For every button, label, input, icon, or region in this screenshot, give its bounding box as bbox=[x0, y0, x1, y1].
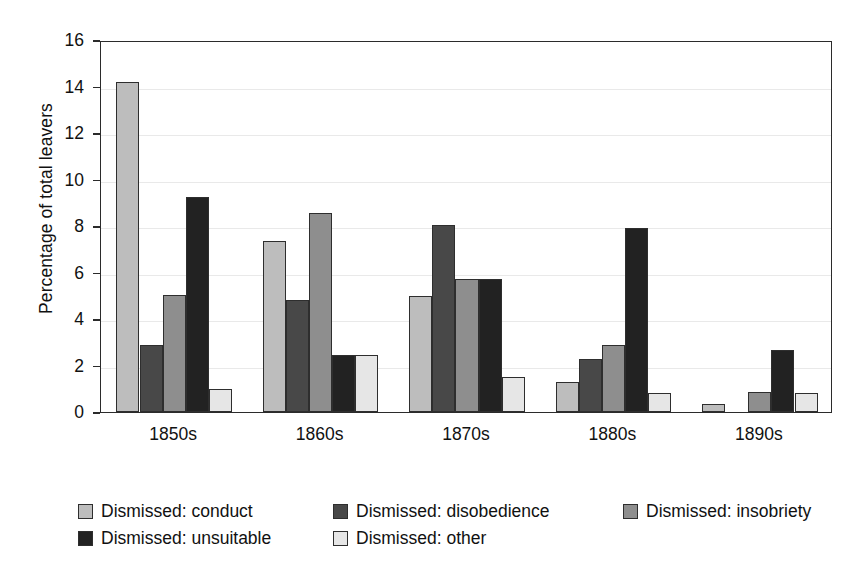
legend-item: Dismissed: unsuitable bbox=[78, 530, 333, 548]
legend-row: Dismissed: unsuitableDismissed: other bbox=[78, 530, 848, 557]
legend-swatch-icon bbox=[78, 504, 93, 519]
plot-area bbox=[100, 41, 832, 413]
y-axis-tick-label: 6 bbox=[34, 265, 84, 283]
x-axis-tick-label-1880s: 1880s bbox=[542, 424, 682, 445]
bar-disobedience-1870s bbox=[432, 225, 455, 412]
bar-conduct-1880s bbox=[556, 382, 579, 412]
bar-unsuitable-1850s bbox=[186, 197, 209, 412]
bar-conduct-1870s bbox=[409, 296, 432, 412]
bar-unsuitable-1870s bbox=[479, 279, 502, 412]
y-axis-tick-label: 4 bbox=[34, 311, 84, 329]
y-axis-tick bbox=[93, 133, 100, 134]
bar-other-1890s bbox=[795, 393, 818, 412]
legend-label: Dismissed: unsuitable bbox=[101, 530, 271, 548]
y-axis-tick-label: 12 bbox=[34, 125, 84, 143]
legend-item: Dismissed: disobedience bbox=[333, 503, 623, 521]
y-axis-tick bbox=[93, 319, 100, 320]
y-axis-tick-label: 0 bbox=[34, 404, 84, 422]
bar-disobedience-1850s bbox=[140, 345, 163, 412]
legend-item: Dismissed: conduct bbox=[78, 503, 333, 521]
bar-insobriety-1870s bbox=[455, 279, 478, 412]
legend-label: Dismissed: insobriety bbox=[646, 503, 811, 521]
bar-insobriety-1850s bbox=[163, 295, 186, 412]
x-axis-tick-label-1850s: 1850s bbox=[103, 424, 243, 445]
legend-swatch-icon bbox=[623, 504, 638, 519]
bar-disobedience-1860s bbox=[286, 300, 309, 412]
y-axis-tick bbox=[93, 366, 100, 367]
bar-unsuitable-1890s bbox=[771, 350, 794, 412]
bar-insobriety-1860s bbox=[309, 213, 332, 412]
bar-chart-figure: Percentage of total leavers 024681012141… bbox=[0, 0, 857, 576]
y-axis-tick-label: 10 bbox=[34, 172, 84, 190]
legend-item: Dismissed: other bbox=[333, 530, 558, 548]
y-axis-tick bbox=[93, 40, 100, 41]
bar-conduct-1850s bbox=[116, 82, 139, 412]
y-axis-tick-label: 16 bbox=[34, 32, 84, 50]
x-axis-tick-label-1870s: 1870s bbox=[396, 424, 536, 445]
legend-swatch-icon bbox=[78, 531, 93, 546]
bar-insobriety-1890s bbox=[748, 392, 771, 412]
bar-other-1870s bbox=[502, 377, 525, 412]
x-axis-tick-label-1890s: 1890s bbox=[689, 424, 829, 445]
y-axis-tick-label: 2 bbox=[34, 358, 84, 376]
legend-item: Dismissed: insobriety bbox=[623, 503, 848, 521]
bar-unsuitable-1880s bbox=[625, 228, 648, 412]
legend-label: Dismissed: conduct bbox=[101, 503, 253, 521]
y-axis-tick bbox=[93, 87, 100, 88]
y-axis-tick bbox=[93, 226, 100, 227]
bar-insobriety-1880s bbox=[602, 345, 625, 412]
legend-label: Dismissed: other bbox=[356, 530, 486, 548]
bar-series-layer bbox=[101, 42, 831, 412]
legend-label: Dismissed: disobedience bbox=[356, 503, 550, 521]
legend-swatch-icon bbox=[333, 531, 348, 546]
bar-disobedience-1880s bbox=[579, 359, 602, 412]
legend-swatch-icon bbox=[333, 504, 348, 519]
bar-conduct-1860s bbox=[263, 241, 286, 412]
legend-row: Dismissed: conductDismissed: disobedienc… bbox=[78, 503, 848, 530]
bar-other-1850s bbox=[209, 389, 232, 412]
y-axis-tick bbox=[93, 273, 100, 274]
y-axis-tick-label: 14 bbox=[34, 79, 84, 97]
y-axis-tick-label: 8 bbox=[34, 218, 84, 236]
bar-unsuitable-1860s bbox=[332, 355, 355, 412]
bar-other-1880s bbox=[648, 393, 671, 412]
chart-legend: Dismissed: conductDismissed: disobedienc… bbox=[78, 503, 848, 557]
bar-other-1860s bbox=[355, 355, 378, 412]
bar-conduct-1890s bbox=[702, 404, 725, 412]
x-axis-tick-label-1860s: 1860s bbox=[250, 424, 390, 445]
y-axis-tick bbox=[93, 412, 100, 413]
y-axis-tick bbox=[93, 180, 100, 181]
